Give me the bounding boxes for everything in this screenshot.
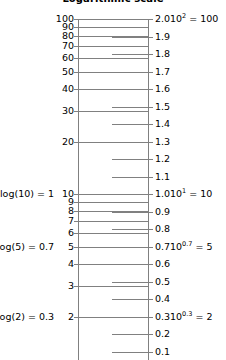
power-of-ten-annotation: 100.3 = 2 [170,312,212,322]
logarithmic-tick-mark [74,27,78,28]
linear-gridline [112,334,149,335]
linear-tick-label: 1.9 [155,32,170,42]
linear-tick-mark [149,334,153,335]
logarithmic-tick-label: 3 [68,281,74,291]
linear-tick-label: 1.5 [155,102,170,112]
logarithmic-tick-mark [74,194,78,195]
logarithmic-tick-mark [74,19,78,20]
logarithmic-tick-mark [74,264,78,265]
linear-tick-label: 1.0 [155,189,170,199]
linear-gridline [112,89,149,90]
logarithmic-gridline [78,27,149,28]
logarithmic-gridline [78,202,149,203]
linear-gridline [112,212,149,213]
log-value-annotation: log(5) = 0.7 [0,242,54,252]
linear-tick-mark [149,282,153,283]
logarithmic-tick-mark [74,286,78,287]
power-result: = 5 [192,241,212,252]
power-of-ten-annotation: 102 = 100 [170,14,218,24]
linear-tick-label: 1.3 [155,137,170,147]
linear-tick-mark [149,159,153,160]
logarithmic-axis-line [78,19,79,360]
linear-gridline [112,247,149,248]
logarithmic-tick-mark [74,89,78,90]
linear-tick-label: 0.2 [155,329,170,339]
linear-tick-label: 0.6 [155,259,170,269]
power-of-ten-annotation: 100.7 = 5 [170,242,212,252]
linear-tick-mark [149,142,153,143]
linear-gridline [112,124,149,125]
linear-gridline [112,194,149,195]
logarithmic-tick-mark [74,221,78,222]
linear-tick-label: 1.7 [155,67,170,77]
power-result: = 100 [186,13,218,24]
power-result: = 2 [192,311,212,322]
linear-tick-label: 2.0 [155,14,170,24]
power-result: = 10 [186,188,212,199]
logarithmic-tick-label: 2 [68,312,74,322]
linear-tick-label: 0.5 [155,277,170,287]
page-title: Logarithmic scale [0,0,226,4]
linear-tick-mark [149,54,153,55]
linear-gridline [112,282,149,283]
linear-tick-mark [149,247,153,248]
logarithmic-tick-mark [74,233,78,234]
linear-tick-label: 0.8 [155,224,170,234]
logarithmic-tick-label: 6 [68,228,74,238]
linear-tick-mark [149,264,153,265]
linear-tick-label: 1.1 [155,172,170,182]
linear-gridline [112,19,149,20]
log-value-annotation: log(2) = 0.3 [0,312,54,322]
logarithmic-tick-mark [74,58,78,59]
linear-gridline [112,159,149,160]
linear-gridline [112,37,149,38]
logarithmic-tick-label: 5 [68,242,74,252]
linear-tick-label: 1.8 [155,49,170,59]
linear-axis-line [148,19,149,360]
logarithmic-tick-label: 80 [62,31,74,41]
logarithmic-tick-mark [74,142,78,143]
linear-tick-mark [149,299,153,300]
linear-tick-label: 0.3 [155,312,170,322]
power-exponent: 0.7 [182,240,192,248]
logarithmic-gridline [78,58,149,59]
linear-tick-mark [149,352,153,353]
linear-gridline [112,229,149,230]
logarithmic-tick-mark [74,211,78,212]
linear-gridline [112,352,149,353]
linear-gridline [112,317,149,318]
linear-gridline [112,107,149,108]
linear-tick-label: 1.2 [155,154,170,164]
logarithmic-tick-label: 4 [68,259,74,269]
linear-tick-mark [149,177,153,178]
linear-tick-label: 0.7 [155,242,170,252]
logarithmic-tick-label: 30 [62,106,74,116]
linear-tick-mark [149,229,153,230]
logarithmic-gridline [78,286,149,287]
linear-tick-label: 0.4 [155,294,170,304]
linear-tick-label: 1.6 [155,84,170,94]
power-base: 10 [170,241,182,252]
linear-tick-label: 1.4 [155,119,170,129]
linear-gridline [112,299,149,300]
linear-gridline [112,72,149,73]
logarithmic-gridline [78,46,149,47]
linear-tick-mark [149,37,153,38]
logarithmic-tick-label: 50 [62,67,74,77]
log-value-annotation: log(10) = 1 [0,189,54,199]
linear-tick-mark [149,124,153,125]
logarithmic-tick-mark [74,111,78,112]
power-of-ten-annotation: 101 = 10 [170,189,212,199]
logarithmic-tick-mark [74,317,78,318]
logarithmic-tick-mark [74,36,78,37]
linear-tick-mark [149,212,153,213]
linear-tick-label: 0.1 [155,347,170,357]
linear-tick-mark [149,107,153,108]
linear-tick-mark [149,72,153,73]
logarithmic-tick-label: 70 [62,41,74,51]
power-exponent: 0.3 [182,310,192,318]
linear-tick-mark [149,317,153,318]
logarithmic-tick-mark [74,72,78,73]
logarithmic-gridline [78,233,149,234]
linear-tick-label: 0.9 [155,207,170,217]
